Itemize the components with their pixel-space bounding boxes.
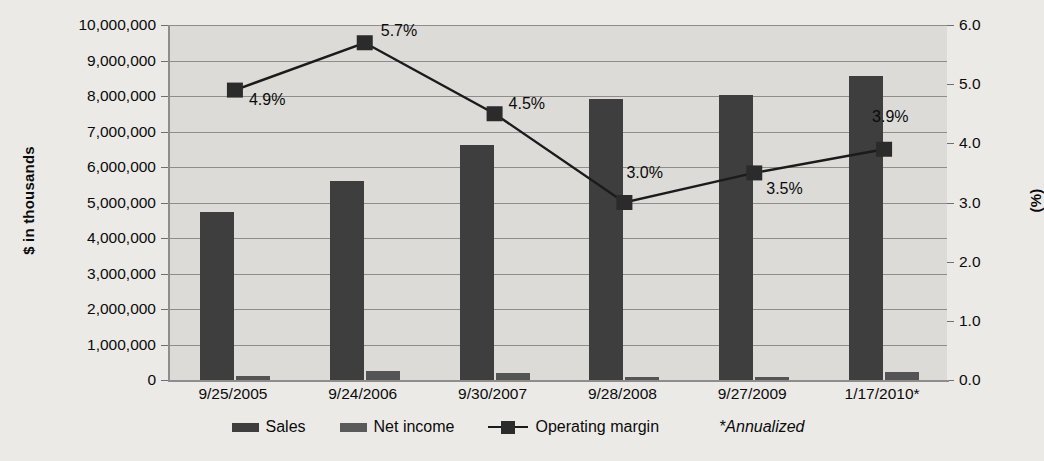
- category-label: 9/25/2005: [168, 385, 298, 403]
- right-axis-tick-label: 0.0: [959, 372, 981, 388]
- legend-item-sales[interactable]: Sales: [232, 418, 306, 436]
- left-axis-tick-mark: [161, 380, 168, 381]
- margin-polyline: [235, 43, 884, 203]
- left-axis-tick-label: 9,000,000: [0, 53, 156, 69]
- margin-marker[interactable]: [746, 165, 762, 180]
- operating-margin-line: [170, 25, 949, 380]
- margin-marker[interactable]: [227, 83, 243, 98]
- category-label: 9/24/2006: [298, 385, 428, 403]
- legend-label-sales: Sales: [266, 418, 306, 436]
- right-axis-tick-label: 6.0: [959, 17, 981, 33]
- margin-data-label: 3.5%: [766, 181, 802, 197]
- margin-data-label: 3.0%: [626, 165, 662, 181]
- left-axis-tick-label: 10,000,000: [0, 17, 156, 33]
- left-axis-tick-label: 8,000,000: [0, 88, 156, 104]
- right-axis-tick-label: 2.0: [959, 254, 981, 270]
- legend-item-net-income[interactable]: Net income: [340, 418, 455, 436]
- plot-area: 4.9%5.7%4.5%3.0%3.5%3.9%: [168, 25, 947, 380]
- left-axis-tick-mark: [161, 96, 168, 97]
- category-label: 9/30/2007: [428, 385, 558, 403]
- left-axis-tick-mark: [161, 309, 168, 310]
- left-axis-tick-mark: [161, 61, 168, 62]
- margin-marker[interactable]: [357, 35, 373, 50]
- left-axis-tick-mark: [161, 167, 168, 168]
- chart-legend: Sales Net income Operating margin *Annua…: [0, 418, 1036, 436]
- left-axis-tick-mark: [161, 345, 168, 346]
- margin-marker[interactable]: [876, 142, 892, 157]
- gridline: [170, 380, 947, 381]
- left-axis-tick-label: 3,000,000: [0, 266, 156, 282]
- left-axis-tick-label: 6,000,000: [0, 159, 156, 175]
- left-axis-tick-label: 4,000,000: [0, 230, 156, 246]
- right-axis-tick-label: 4.0: [959, 135, 981, 151]
- legend-label-operating-margin: Operating margin: [535, 418, 659, 436]
- legend-label-net-income: Net income: [374, 418, 455, 436]
- left-axis-tick-mark: [161, 238, 168, 239]
- right-axis-tick-label: 1.0: [959, 313, 981, 329]
- left-axis-tick-mark: [161, 25, 168, 26]
- left-axis-tick-label: 1,000,000: [0, 337, 156, 353]
- margin-marker[interactable]: [487, 106, 503, 121]
- left-axis-tick-label: 7,000,000: [0, 124, 156, 140]
- category-label: 9/28/2008: [558, 385, 688, 403]
- margin-data-label: 4.9%: [249, 92, 285, 108]
- category-label: 1/17/2010*: [817, 385, 947, 403]
- left-axis-tick-label: 0: [0, 372, 156, 388]
- left-axis-tick-mark: [161, 132, 168, 133]
- left-axis-tick-mark: [161, 203, 168, 204]
- left-axis-tick-label: 5,000,000: [0, 195, 156, 211]
- margin-data-label: 5.7%: [381, 23, 417, 39]
- sales-swatch-icon: [232, 423, 259, 432]
- right-axis-title: (%): [1027, 101, 1044, 301]
- right-axis-tick-label: 3.0: [959, 195, 981, 211]
- line-marker-icon: [488, 420, 528, 434]
- left-axis-tick-mark: [161, 274, 168, 275]
- legend-item-operating-margin[interactable]: Operating margin: [488, 418, 659, 436]
- category-label: 9/27/2009: [687, 385, 817, 403]
- margin-data-label: 3.9%: [872, 109, 908, 125]
- margin-marker[interactable]: [616, 195, 632, 210]
- annualized-footnote: *Annualized: [719, 418, 804, 436]
- net-income-swatch-icon: [340, 423, 367, 432]
- margin-data-label: 4.5%: [509, 96, 545, 112]
- right-axis-tick-label: 5.0: [959, 76, 981, 92]
- left-axis-tick-label: 2,000,000: [0, 301, 156, 317]
